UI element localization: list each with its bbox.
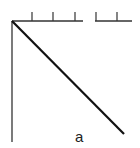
diagonal-line bbox=[12, 21, 124, 134]
diagram-label: a bbox=[75, 128, 84, 145]
diagram-canvas: a bbox=[0, 0, 140, 148]
